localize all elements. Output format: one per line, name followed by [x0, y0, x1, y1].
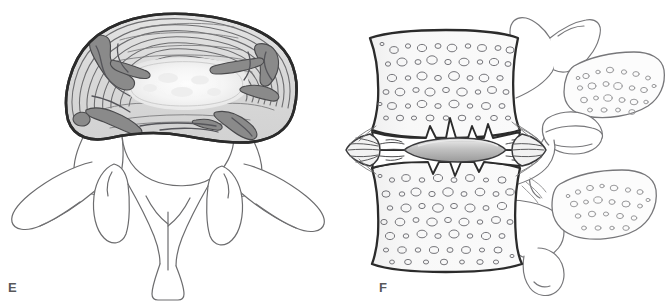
- panel-f-illustration: [334, 0, 668, 302]
- panel-label-f: F: [379, 281, 387, 294]
- panel-e-illustration: [0, 0, 334, 302]
- panel-label-e: E: [8, 281, 17, 294]
- vertebral-body-superior-group: [370, 30, 520, 138]
- figure-root: E: [0, 0, 668, 302]
- lamina-left: [128, 184, 160, 264]
- spinous-process-inferior: [552, 170, 656, 239]
- vertebral-body-inferior-group: [372, 160, 522, 272]
- spinous-base-right: [168, 198, 190, 226]
- panel-f: F: [334, 0, 668, 302]
- intervertebral-disc-group-e: [66, 14, 297, 143]
- spinous-base-left: [146, 196, 168, 224]
- pedicle-inferior-tail: [523, 248, 564, 295]
- lamina-right: [176, 186, 208, 266]
- panel-e: E: [0, 0, 334, 302]
- vertebral-arch-group-e: [12, 128, 325, 300]
- fissure-left-nodule: [73, 112, 90, 126]
- vertebral-body-superior: [370, 30, 520, 138]
- vertebral-body-inferior: [372, 160, 522, 272]
